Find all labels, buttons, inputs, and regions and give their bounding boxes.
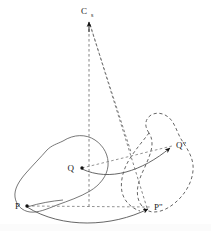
label-point-p-image: P" bbox=[154, 202, 163, 212]
marker-q bbox=[80, 166, 83, 169]
source-surface-outline bbox=[15, 136, 108, 213]
arrow-q-to-q-image bbox=[82, 148, 170, 175]
ray-c-to-q-image bbox=[90, 25, 131, 152]
projection-diagram: C s Q P Q" P" bbox=[0, 0, 211, 231]
target-surface-outline bbox=[137, 113, 193, 212]
label-point-q: Q bbox=[68, 163, 75, 173]
label-center-subscript: s bbox=[91, 12, 94, 18]
marker-p bbox=[25, 204, 28, 207]
label-center: C bbox=[81, 6, 87, 16]
label-point-p: P bbox=[15, 201, 20, 211]
bottom-margin-band bbox=[0, 224, 211, 231]
label-point-q-image: Q" bbox=[176, 140, 186, 150]
ray-c-to-p-image bbox=[90, 24, 147, 208]
chord-p-to-p-image bbox=[27, 206, 150, 207]
